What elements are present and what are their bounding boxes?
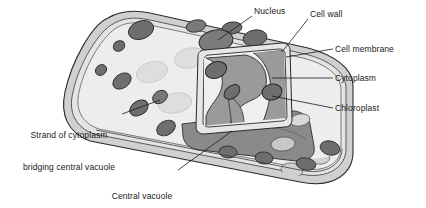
label-cell-wall: Cell wall: [310, 9, 343, 20]
label-cell-membrane: Cell membrane: [335, 44, 394, 55]
label-cytoplasm: Cytoplasm: [335, 73, 376, 84]
cut-face-panel: [196, 43, 292, 134]
plant-cell-diagram: Nucleus Cell wall Cell membrane Cytoplas…: [0, 0, 426, 208]
label-chloroplast: Chloroplast: [335, 103, 379, 114]
cytoplasm-region: [203, 50, 288, 130]
label-strand-of-cytoplasm-line1: Strand of cytoplasm: [16, 130, 122, 141]
label-central-vacuole: Central vacuole (fluid-filled): [106, 170, 178, 208]
label-central-vacuole-line1: Central vacuole: [106, 191, 178, 202]
label-nucleus: Nucleus: [254, 6, 285, 17]
